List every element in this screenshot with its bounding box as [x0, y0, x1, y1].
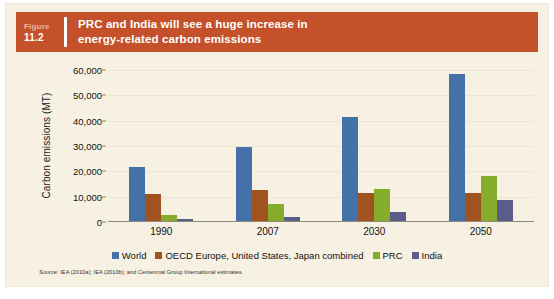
- y-tick-label: 20,000: [73, 166, 102, 177]
- y-tick-mark: [102, 146, 106, 147]
- legend-label: India: [422, 250, 443, 261]
- bar: [390, 212, 406, 221]
- bar: [342, 117, 358, 221]
- y-tick-mark: [102, 120, 106, 121]
- y-tick-mark: [102, 171, 106, 172]
- bar: [161, 215, 177, 221]
- bar-group: 2030: [321, 70, 428, 221]
- legend-label: World: [122, 250, 147, 261]
- source-note: Source: IEA (2010a); IEA (2010b); and Ce…: [39, 269, 519, 275]
- y-tick-mark: [102, 95, 106, 96]
- legend-item[interactable]: India: [412, 250, 443, 261]
- legend-swatch: [412, 252, 419, 259]
- bar: [358, 193, 374, 221]
- bar: [465, 193, 481, 221]
- bar-groups: 1990200720302050: [108, 70, 534, 221]
- bar-group: 2050: [428, 70, 535, 221]
- figure-title-line-1: PRC and India will see a huge increase i…: [78, 17, 538, 32]
- legend-item[interactable]: OECD Europe, United States, Japan combin…: [155, 250, 363, 261]
- bar-group: 2007: [215, 70, 322, 221]
- legend-label: PRC: [383, 250, 403, 261]
- bar: [236, 147, 252, 220]
- bar: [497, 200, 513, 220]
- y-tick-label: 40,000: [73, 115, 102, 126]
- chart: Carbon emissions (MT) 010,00020,00030,00…: [16, 60, 538, 248]
- x-axis-line: [108, 221, 534, 223]
- y-tick-mark: [102, 196, 106, 197]
- bar: [374, 189, 390, 221]
- bar: [481, 176, 497, 220]
- figure-title-line-2: energy-related carbon emissions: [78, 32, 538, 47]
- y-tick-mark: [102, 222, 106, 223]
- figure-title: PRC and India will see a huge increase i…: [67, 12, 538, 52]
- plot-area: 1990200720302050: [108, 70, 534, 222]
- source-text: IEA (2010a); IEA (2010b); and Centennial…: [59, 269, 244, 275]
- x-tick-label: 1990: [108, 226, 215, 237]
- bar: [252, 190, 268, 220]
- figure-number-block: Figure 11.2: [16, 12, 64, 52]
- legend-item[interactable]: PRC: [373, 250, 403, 261]
- figure-panel: Figure 11.2 PRC and India will see a hug…: [6, 4, 548, 286]
- source-prefix: Source:: [39, 269, 59, 275]
- x-tick-label: 2030: [321, 226, 428, 237]
- figure-number: 11.2: [24, 32, 64, 44]
- chart-legend: WorldOECD Europe, United States, Japan c…: [16, 250, 538, 261]
- bar: [268, 204, 284, 220]
- y-axis-ticks: 010,00020,00030,00040,00050,00060,000: [54, 70, 106, 222]
- y-tick-label: 50,000: [73, 90, 102, 101]
- figure-header-band: Figure 11.2 PRC and India will see a hug…: [16, 12, 538, 52]
- y-tick-mark: [102, 70, 106, 71]
- legend-item[interactable]: World: [112, 250, 147, 261]
- x-tick-label: 2007: [215, 226, 322, 237]
- bar-group: 1990: [108, 70, 215, 221]
- bar: [284, 217, 300, 221]
- bar: [177, 219, 193, 221]
- figure-label: Figure: [24, 21, 64, 32]
- x-tick-label: 2050: [428, 226, 535, 237]
- bar: [145, 194, 161, 221]
- bar: [449, 74, 465, 221]
- legend-swatch: [112, 252, 119, 259]
- legend-label: OECD Europe, United States, Japan combin…: [165, 250, 363, 261]
- bar: [129, 167, 145, 220]
- legend-swatch: [373, 252, 380, 259]
- y-tick-label: 30,000: [73, 141, 102, 152]
- y-tick-label: 10,000: [73, 191, 102, 202]
- legend-swatch: [155, 252, 162, 259]
- y-axis-title: Carbon emissions (MT): [38, 70, 54, 220]
- y-axis-title-text: Carbon emissions (MT): [41, 92, 52, 198]
- y-tick-label: 60,000: [73, 65, 102, 76]
